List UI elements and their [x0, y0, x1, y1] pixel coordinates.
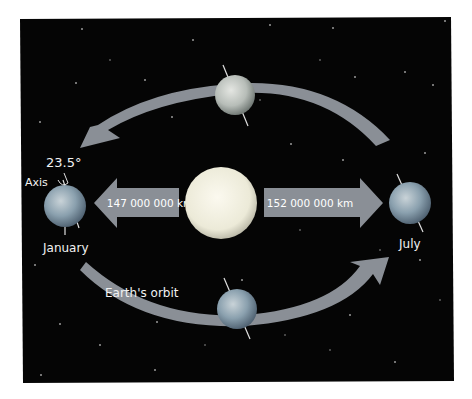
sun-icon [185, 167, 257, 239]
orbit-label: Earth's orbit [105, 286, 179, 300]
january-label: January [42, 241, 89, 255]
axis-label: Axis [25, 176, 48, 189]
angle-label: 23.5° [46, 155, 81, 170]
july-label: July [398, 237, 421, 251]
perihelion-distance-label: 147 000 000 km [107, 197, 193, 209]
orbit-diagram: 147 000 000 km 152 000 000 km 23.5° Axis… [0, 0, 472, 399]
aphelion-distance-label: 152 000 000 km [267, 197, 353, 209]
